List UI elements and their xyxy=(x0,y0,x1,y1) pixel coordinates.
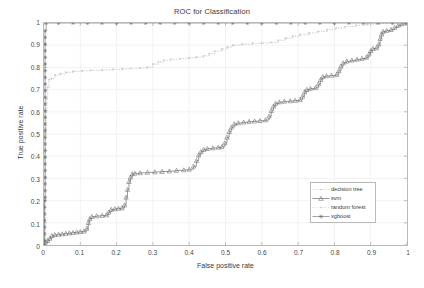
y-tick-label: 0 xyxy=(36,243,40,250)
y-tick-label: 0.2 xyxy=(31,198,40,205)
x-axis-label: False positive rate xyxy=(43,262,408,269)
x-tick-label: 0.6 xyxy=(257,249,266,256)
y-tick-label: 0.9 xyxy=(31,41,40,48)
y-tick-label: 0.7 xyxy=(31,86,40,93)
y-tick-label: 0.4 xyxy=(31,153,40,160)
legend-label: random forest xyxy=(331,203,366,212)
x-tick-label: 0.8 xyxy=(330,249,339,256)
x-tick-label: 0 xyxy=(41,249,45,256)
legend-label: decision tree xyxy=(331,185,363,194)
legend-item-decision-tree[interactable]: decision tree xyxy=(311,185,375,194)
x-tick-label: 0.7 xyxy=(294,249,303,256)
legend-item-svm[interactable]: svm xyxy=(311,194,375,203)
x-tick-label: 0.1 xyxy=(75,249,84,256)
x-tick-label: 0.9 xyxy=(367,249,376,256)
legend-marker-triangle-icon xyxy=(311,194,331,203)
legend-label: svm xyxy=(331,194,341,203)
x-tick-label: 0.2 xyxy=(111,249,120,256)
legend-marker-dot-icon xyxy=(311,185,331,194)
legend-label: xgboost xyxy=(331,212,351,221)
roc-chart-figure: ROC for Classification 00.10.20.30.40.50… xyxy=(0,0,424,288)
x-tick-label: 0.5 xyxy=(221,249,230,256)
legend-item-xgboost[interactable]: xgboost xyxy=(311,212,375,221)
legend-marker-dot-icon xyxy=(311,203,331,212)
y-tick-label: 0.6 xyxy=(31,108,40,115)
y-tick-label: 1 xyxy=(36,19,40,26)
y-tick-label: 0.8 xyxy=(31,63,40,70)
x-tick-label: 0.4 xyxy=(184,249,193,256)
y-tick-label: 0.1 xyxy=(31,220,40,227)
x-tick-label: 1 xyxy=(406,249,410,256)
chart-title: ROC for Classification xyxy=(0,7,424,16)
y-tick-label: 0.5 xyxy=(31,131,40,138)
legend-item-random-forest[interactable]: random forest xyxy=(311,203,375,212)
x-tick-label: 0.3 xyxy=(148,249,157,256)
y-axis-label: True positive rate xyxy=(17,21,24,245)
chart-legend[interactable]: decision treesvmrandom forestxgboost xyxy=(310,182,376,223)
x-axis-tick-labels: 00.10.20.30.40.50.60.70.80.91 xyxy=(43,249,408,261)
legend-marker-asterisk-icon xyxy=(311,212,331,221)
y-tick-label: 0.3 xyxy=(31,175,40,182)
